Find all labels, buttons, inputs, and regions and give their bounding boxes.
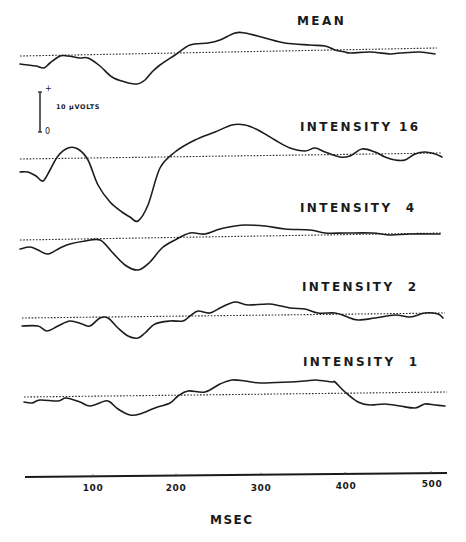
x-axis	[25, 471, 447, 477]
trace-label-mean: MEAN	[297, 14, 346, 28]
x-tick-label-400: 400	[336, 481, 356, 491]
baseline-intensity-1	[24, 392, 447, 397]
trace-label-intensity-2: INTENSITY 2	[302, 280, 418, 294]
dotted-baselines	[20, 48, 447, 397]
x-tick-label-500: 500	[422, 479, 442, 489]
trace-intensity-1	[24, 380, 445, 416]
scale-zero-sign: 0	[45, 127, 50, 136]
scale-plus-sign: +	[45, 84, 52, 93]
trace-intensity-4	[20, 225, 440, 270]
trace-intensity-2	[22, 302, 443, 338]
x-tick-label-300: 300	[251, 483, 271, 493]
scale-bar	[38, 92, 42, 132]
waveform-figure	[0, 0, 466, 542]
x-tick-label-100: 100	[83, 483, 103, 493]
x-tick-label-200: 200	[166, 483, 186, 493]
trace-label-intensity-1: INTENSITY 1	[303, 355, 419, 369]
trace-label-intensity-4: INTENSITY 4	[300, 201, 416, 215]
x-axis-title: MSEC	[210, 513, 254, 527]
trace-label-intensity-16: INTENSITY 16	[300, 120, 421, 134]
scale-bar-label: 10 µVOLTS	[56, 103, 100, 111]
x-axis-line	[25, 473, 447, 477]
trace-mean	[20, 32, 435, 84]
